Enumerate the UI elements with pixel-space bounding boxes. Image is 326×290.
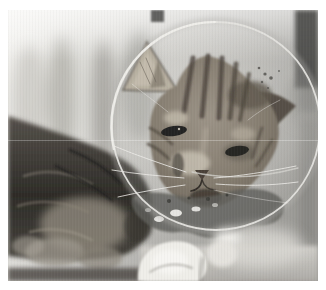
speck: [278, 70, 280, 72]
towel-highlight: [152, 250, 188, 274]
speck: [269, 76, 273, 80]
body-bottom-shadow: [8, 268, 143, 281]
towel-fold: [207, 241, 237, 267]
photo: [8, 10, 325, 281]
speck: [267, 87, 269, 89]
lace-hole: [167, 199, 171, 203]
cat-cone-photo: [0, 0, 326, 290]
lace-hole: [226, 194, 229, 197]
rim-reflection: [192, 207, 201, 212]
rim-reflection: [212, 203, 218, 207]
speck: [261, 81, 263, 83]
paw-shape: [12, 236, 44, 256]
rim-reflection: [170, 210, 182, 217]
right-brow-highlight: [231, 127, 255, 141]
speck: [263, 72, 266, 75]
frame-block: [151, 10, 164, 22]
lace-hole: [187, 196, 190, 199]
left-brow-highlight: [164, 111, 188, 125]
paw-shape: [78, 246, 122, 270]
photo-canvas: [0, 0, 326, 290]
left-eye-glint: [178, 128, 180, 130]
tabby-stripe: [219, 58, 222, 118]
lace-hole: [206, 197, 210, 201]
speck: [258, 67, 261, 70]
scan-seam-line: [8, 140, 318, 141]
muzzle-dark-marking: [172, 153, 184, 177]
